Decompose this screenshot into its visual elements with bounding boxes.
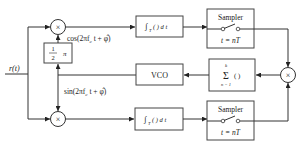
phase-shift-block: 1 2 π xyxy=(44,43,72,63)
carrier-recovery-block-diagram: r(t) × × 1 2 π cos(2πfc t + φ̂) sin(2πfc… xyxy=(0,0,303,147)
sampler-caption: t = nT xyxy=(221,128,241,137)
sampler-caption: t = nT xyxy=(221,36,241,45)
input-signal: r(t) xyxy=(5,64,28,74)
integral-body: ( ) d t xyxy=(152,116,166,124)
multiply-icon: × xyxy=(56,23,61,32)
sampler-title: Sampler xyxy=(218,13,243,22)
wire-top-sampler-to-right-mult xyxy=(254,29,288,67)
vco-label: VCO xyxy=(151,71,168,80)
multiply-icon: × xyxy=(56,115,61,124)
vco-block: VCO xyxy=(136,64,183,85)
sigma-icon: Σ xyxy=(223,70,229,81)
top-multiplier: × xyxy=(51,20,66,35)
summation-block: k Σ n = 1 ( ) xyxy=(209,59,255,91)
bottom-sampler-block: Sampler t = nT xyxy=(207,101,254,140)
bottom-multiplier: × xyxy=(51,112,66,127)
right-multiplier: × xyxy=(281,68,296,83)
bottom-integrator-block: ∫ T ( ) d t xyxy=(135,108,183,130)
input-label: r(t) xyxy=(9,64,20,73)
phase-shift-numerator: 1 xyxy=(51,45,54,52)
top-integrator-block: ∫ T ( ) d t xyxy=(136,16,183,37)
sum-body: ( ) xyxy=(234,72,241,80)
sum-lower-limit: n = 1 xyxy=(221,82,231,87)
multiply-icon: × xyxy=(286,71,291,80)
top-sampler-block: Sampler t = nT xyxy=(207,9,254,48)
sampler-title: Sampler xyxy=(218,105,243,114)
phase-shift-denominator: 2 xyxy=(51,54,54,61)
cos-reference-label: cos(2πfc t + φ̂) xyxy=(67,34,111,44)
wire-bottom-sampler-to-right-mult xyxy=(254,83,288,121)
sin-reference-label: sin(2πfc t + φ̂) xyxy=(64,87,107,97)
integral-body: ( ) d t xyxy=(153,23,167,31)
phase-shift-pi: π xyxy=(63,50,67,58)
